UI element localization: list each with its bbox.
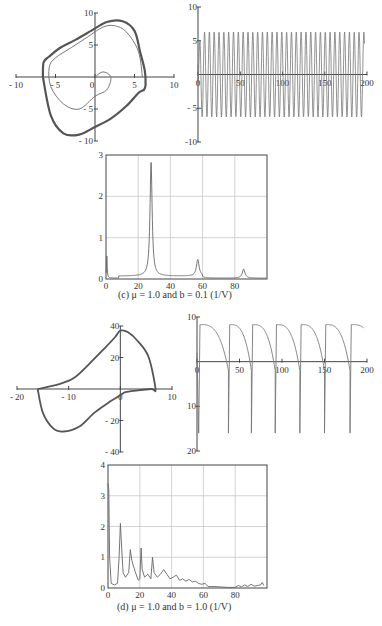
svg-text:2: 2 [99,191,104,201]
spectrum-trace [106,162,267,278]
svg-text:40: 40 [167,590,177,600]
svg-text:60: 60 [199,590,209,600]
time-series-d: 050100150200101020 [187,312,374,456]
svg-text:5: 5 [132,80,137,90]
caption-d: (d) μ = 1.0 and b = 1.0 (1/V) [117,601,231,612]
svg-text:0: 0 [106,590,111,600]
svg-text:1: 1 [101,552,106,562]
svg-text:- 10: - 10 [9,80,24,90]
svg-text:- 20: - 20 [105,416,120,426]
svg-text:0: 0 [99,274,104,284]
svg-text:0: 0 [104,281,109,291]
time-series-c: 050100150200105- 5-10 [185,2,374,147]
svg-text:50: 50 [235,365,245,375]
svg-text:20: 20 [135,590,145,600]
spectrum-trace [108,483,264,587]
limit-cycle [38,330,156,431]
svg-text:5: 5 [89,40,94,50]
svg-text:0: 0 [90,80,95,90]
relaxation-trace [197,325,364,434]
svg-text:40: 40 [110,321,120,331]
svg-text:2: 2 [101,522,106,532]
svg-text:- 10: - 10 [79,136,94,146]
svg-text:3: 3 [101,491,106,501]
svg-text:10: 10 [84,8,94,18]
svg-text:200: 200 [360,365,374,375]
svg-text:10: 10 [168,392,178,402]
svg-text:5: 5 [193,36,198,46]
svg-text:1: 1 [99,233,104,243]
svg-text:20: 20 [187,446,197,456]
svg-text:- 5: - 5 [187,103,197,113]
svg-text:0: 0 [101,583,106,593]
caption-c: (c) μ = 1.0 and b = 0.1 (1/V) [118,289,232,300]
svg-text:20: 20 [110,353,120,363]
phase-portrait-c: - 10- 50510105- 5- 10 [9,8,179,146]
figure: - 10- 50510105- 5- 10050100150200105- 5-… [0,0,382,626]
svg-text:10: 10 [187,312,197,322]
spectrum-d: 02040608043210 [101,460,268,600]
svg-text:3: 3 [99,150,104,160]
svg-text:- 20: - 20 [10,392,25,402]
spectrum-c: 0204060803210 [99,150,268,291]
svg-text:-10: -10 [185,137,197,147]
svg-text:- 5: - 5 [51,80,61,90]
svg-text:10: 10 [170,80,180,90]
svg-text:100: 100 [275,365,289,375]
svg-text:10: 10 [187,401,197,411]
svg-text:4: 4 [101,460,106,470]
svg-text:150: 150 [318,78,332,88]
limit-cycle [43,20,146,135]
transient-trajectory [49,25,143,109]
svg-text:10: 10 [188,2,198,12]
phase-portrait-d: - 20- 100104020- 20- 40 [10,321,177,457]
svg-text:- 10: - 10 [62,392,77,402]
svg-text:80: 80 [231,590,241,600]
svg-text:- 40: - 40 [105,447,120,457]
